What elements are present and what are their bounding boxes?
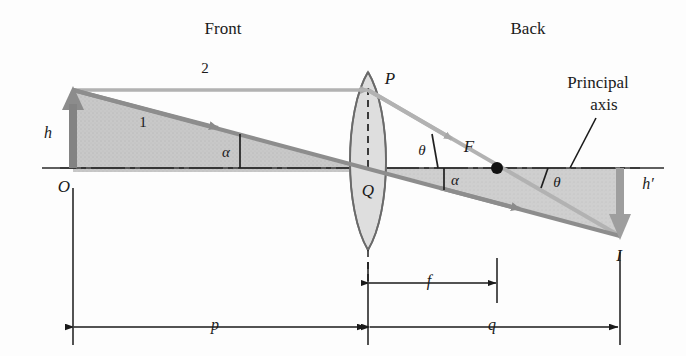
image-height-label: h′ bbox=[642, 176, 654, 192]
focal-point-label: F bbox=[464, 138, 474, 155]
principal-axis-leader-line bbox=[570, 118, 596, 168]
image-point-label: I bbox=[616, 247, 622, 264]
object-height-label: h bbox=[44, 125, 52, 141]
principal-axis-label-line1: Principal bbox=[567, 74, 628, 91]
theta-lower-label: θ bbox=[553, 175, 560, 190]
principal-axis-label-line2: axis bbox=[590, 96, 617, 113]
object-point-label: O bbox=[58, 178, 70, 195]
lens-ray-diagram-figure: Front Back 2 1 h O P Q F I h′ α α θ θ Pr… bbox=[0, 0, 686, 356]
front-region-label: Front bbox=[205, 20, 242, 37]
ray-2-label: 2 bbox=[201, 61, 209, 76]
alpha-left-label: α bbox=[222, 145, 230, 160]
object-distance-label: p bbox=[211, 317, 219, 333]
image-distance-label: q bbox=[488, 317, 496, 333]
diagram-canvas bbox=[0, 0, 686, 356]
ray-1-label: 1 bbox=[139, 115, 147, 130]
focal-point-marker bbox=[491, 162, 503, 174]
theta-upper-label: θ bbox=[418, 143, 425, 158]
lens-top-point-label: P bbox=[385, 70, 395, 87]
back-region-label: Back bbox=[511, 20, 546, 37]
focal-length-dimension bbox=[368, 258, 497, 303]
alpha-right-label: α bbox=[451, 173, 459, 188]
focal-length-label: f bbox=[427, 273, 431, 289]
lens-center-point-label: Q bbox=[362, 182, 374, 199]
theta-upper-tick bbox=[432, 134, 438, 168]
